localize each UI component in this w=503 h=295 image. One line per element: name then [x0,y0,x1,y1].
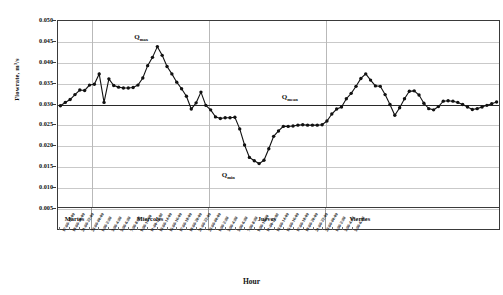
data-point [388,103,391,106]
data-point [403,97,406,100]
y-tick-mark [52,124,56,125]
data-point [238,127,241,130]
y-tick-label: 0.040 [1,58,53,65]
data-point [446,99,449,102]
data-point [277,129,280,132]
data-point [170,72,173,75]
data-point [369,78,372,81]
data-point [349,92,352,95]
data-point [272,135,275,138]
data-point [175,80,178,83]
flowrate-series [58,21,499,207]
data-point [185,95,188,98]
y-tick-label: 0.030 [1,100,53,107]
data-point [301,123,304,126]
data-point [437,105,440,108]
data-point [253,159,256,162]
y-tick-mark [52,145,56,146]
data-point [398,106,401,109]
data-point [432,108,435,111]
data-point [495,100,498,103]
data-point [204,104,207,107]
data-point [475,107,478,110]
data-point [306,123,309,126]
data-point [98,72,101,75]
data-point [485,104,488,107]
data-point [282,125,285,128]
data-point [243,143,246,146]
data-point [131,86,134,89]
data-point [451,100,454,103]
data-point [262,159,265,162]
data-point [209,108,212,111]
qmax-annotation: Qmax [134,33,148,42]
y-tick-label: 0.025 [1,120,53,127]
data-point [393,114,396,117]
y-tick-label: 0.020 [1,141,53,148]
data-point [456,101,459,104]
data-point [330,112,333,115]
x-axis-ticks: 17:00-18:0019:00-20:0021:00-22:0023:00-0… [57,230,500,276]
data-point [383,93,386,96]
x-axis-title: Hour [0,277,503,286]
data-point [466,105,469,108]
y-tick-mark [52,83,56,84]
data-point [219,117,222,120]
data-point [112,84,115,87]
data-point [223,116,226,119]
data-point [408,90,411,93]
y-tick-mark [52,166,56,167]
data-point [311,123,314,126]
data-point [122,86,125,89]
data-point [354,85,357,88]
data-point [287,125,290,128]
data-point [194,101,197,104]
data-point [156,45,159,48]
data-point [64,101,67,104]
data-point [316,123,319,126]
y-tick-label: 0.035 [1,79,53,86]
data-point [83,89,86,92]
qmean-annotation: Qmean [282,93,298,102]
data-point [480,105,483,108]
data-point [160,54,163,57]
y-tick-mark [52,187,56,188]
y-tick-mark [52,41,56,42]
data-point [471,108,474,111]
data-point [379,85,382,88]
data-point [228,116,231,119]
data-point [442,100,445,103]
data-point [490,102,493,105]
y-tick-mark [52,208,56,209]
data-point [141,76,144,79]
data-point [146,64,149,67]
data-point [73,93,76,96]
data-point [117,85,120,88]
data-point [291,124,294,127]
y-tick-mark [52,62,56,63]
data-point [257,162,260,165]
data-point [320,123,323,126]
data-point [127,86,130,89]
data-point [165,65,168,68]
y-tick-mark [52,104,56,105]
data-point [180,87,183,90]
data-point [233,116,236,119]
data-point [267,147,270,150]
data-point [413,89,416,92]
data-point [427,107,430,110]
data-point [422,102,425,105]
data-point [417,93,420,96]
data-point [214,115,217,118]
data-point [374,84,377,87]
data-point [364,72,367,75]
y-axis-ticks: 0.0500.0450.0400.0350.0300.0250.0200.015… [0,20,57,208]
data-point [78,88,81,91]
y-tick-label: 0.050 [1,16,53,23]
data-point [136,83,139,86]
data-point [59,104,62,107]
data-point [68,98,71,101]
data-point [93,83,96,86]
chart-figure: Flowrate, m³/s Hour 0.0500.0450.0400.035… [0,0,503,295]
qmin-annotation: Qmin [222,171,235,180]
